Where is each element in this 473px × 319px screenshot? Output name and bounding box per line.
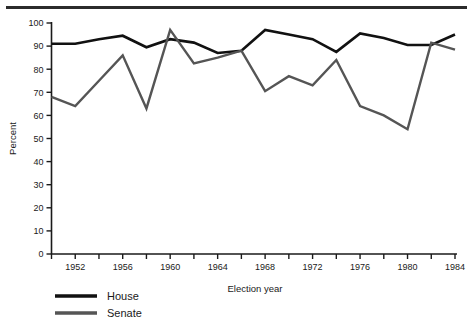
y-axis-tick-label: 40 <box>33 157 43 167</box>
x-axis-tick-label: 1960 <box>160 262 180 272</box>
data-series-group <box>52 30 456 129</box>
y-axis-tick-group: 0102030405060708090100 <box>28 18 51 259</box>
y-axis-tick-label: 60 <box>33 111 43 121</box>
y-axis-tick-label: 30 <box>33 180 43 190</box>
chart-figure: 0102030405060708090100 19521956196019641… <box>0 0 473 319</box>
x-axis-tick-group: 195219561960196419681972197619801984 <box>52 254 466 272</box>
series-line-house <box>52 30 456 53</box>
y-axis-tick-label: 20 <box>33 203 43 213</box>
x-axis-tick-label: 1956 <box>113 262 133 272</box>
chart-legend: HouseSenate <box>55 290 142 319</box>
y-axis-title: Percent <box>7 122 18 155</box>
x-axis-tick-label: 1968 <box>255 262 275 272</box>
x-axis-tick-label: 1980 <box>398 262 418 272</box>
x-axis-tick-label: 1952 <box>65 262 85 272</box>
y-axis-tick-label: 100 <box>28 18 43 28</box>
series-line-senate <box>52 30 456 129</box>
line-chart-plot: 0102030405060708090100 19521956196019641… <box>0 0 473 319</box>
legend-label-senate: Senate <box>107 307 142 319</box>
y-axis-tick-label: 10 <box>33 226 43 236</box>
y-axis-tick-label: 0 <box>38 249 43 259</box>
x-axis-tick-label: 1976 <box>350 262 370 272</box>
x-axis-tick-label: 1972 <box>303 262 323 272</box>
legend-label-house: House <box>107 290 139 302</box>
y-axis-tick-label: 70 <box>33 88 43 98</box>
y-axis-tick-label: 90 <box>33 41 43 51</box>
y-axis-tick-label: 80 <box>33 65 43 75</box>
x-axis-title: Election year <box>228 283 283 294</box>
x-axis-tick-label: 1984 <box>445 262 465 272</box>
x-axis-tick-label: 1964 <box>208 262 228 272</box>
y-axis-tick-label: 50 <box>33 134 43 144</box>
